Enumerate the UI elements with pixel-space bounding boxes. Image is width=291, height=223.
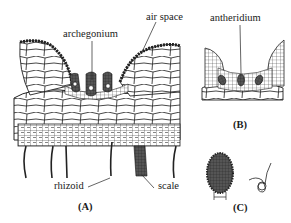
- label-scale: scale: [158, 181, 179, 192]
- panel-c-drawing: [207, 153, 271, 200]
- label-antheridium: antheridium: [210, 13, 261, 24]
- sperm-cell: [249, 163, 271, 192]
- rhizoids: [24, 142, 176, 178]
- panel-label-c: (C): [233, 203, 248, 214]
- panel-b-drawing: [202, 40, 284, 100]
- label-rhizoid: rhizoid: [54, 181, 84, 192]
- scale-structure: [134, 146, 147, 176]
- panel-a-drawing: [14, 41, 180, 178]
- label-air-space: air space: [146, 12, 183, 23]
- panel-label-a: (A): [78, 202, 93, 213]
- label-archegonium: archegonium: [63, 29, 118, 40]
- panel-label-b: (B): [233, 120, 247, 131]
- botanical-illustration: [0, 0, 291, 223]
